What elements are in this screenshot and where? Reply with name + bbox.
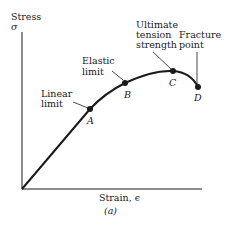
annotation-c-line3: strength	[136, 39, 177, 50]
annotation-a-line2: limit	[41, 98, 63, 109]
leader-line-a	[73, 102, 88, 108]
stress-strain-diagram: Stress σ Strain, ϵ (a) Linear limit A El…	[0, 0, 229, 227]
point-b-marker	[122, 80, 128, 86]
leader-line-b	[112, 71, 123, 80]
point-a-marker	[87, 106, 93, 112]
x-axis-label: Strain, ϵ	[99, 192, 140, 203]
y-axis-symbol: σ	[11, 21, 18, 32]
point-d-letter: D	[193, 92, 202, 103]
annotation-d-line2: point	[179, 39, 204, 50]
point-d-marker	[195, 84, 201, 90]
annotation-b-line2: limit	[82, 66, 104, 77]
point-a-letter: A	[86, 115, 94, 126]
leader-line-c	[153, 52, 171, 69]
annotation-b-line1: Elastic	[82, 55, 115, 66]
point-c-letter: C	[169, 77, 177, 88]
point-b-letter: B	[123, 89, 131, 100]
figure-caption: (a)	[104, 205, 117, 216]
